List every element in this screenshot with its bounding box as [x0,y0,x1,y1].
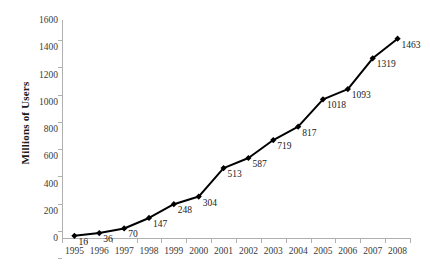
x-tick-mark [186,239,187,243]
x-tick-mark [385,239,386,243]
x-tick-label: 2003 [264,246,283,256]
data-point-label: 1319 [377,59,396,69]
x-tick-label: 2006 [338,246,357,256]
x-tick-label: 2008 [388,246,407,256]
x-tick-label: 2000 [189,246,208,256]
data-point-label: 70 [128,229,138,239]
data-point-label: 513 [228,169,242,179]
y-tick-label: 400 [44,179,58,189]
data-point-label: 16 [78,237,88,247]
data-point-label: 1463 [402,40,421,50]
data-point-label: 1093 [352,90,371,100]
data-point-label: 1018 [327,100,346,110]
y-tick-label: 200 [44,206,58,216]
x-tick-mark [286,239,287,243]
x-tick-mark [311,239,312,243]
x-tick-mark [137,239,138,243]
x-tick-label: 1998 [140,246,159,256]
y-tick-label: 800 [44,124,58,134]
series-polyline [74,39,397,236]
x-tick-mark [161,239,162,243]
x-tick-label: 2002 [239,246,258,256]
data-point-label: 147 [153,219,167,229]
x-tick-label: 2001 [214,246,233,256]
data-point-marker [96,230,102,236]
y-tick-label: 1400 [39,42,58,52]
data-point-label: 587 [252,159,266,169]
x-tick-label: 1997 [115,246,134,256]
x-tick-label: 1995 [65,246,84,256]
x-tick-mark [360,239,361,243]
data-point-label: 304 [203,198,217,208]
x-tick-label: 2004 [289,246,308,256]
x-tick-label: 1999 [164,246,183,256]
data-point-label: 248 [178,205,192,215]
x-tick-mark [62,239,63,243]
y-tick-label: 1000 [39,97,58,107]
x-tick-mark [261,239,262,243]
x-tick-label: 1996 [90,246,109,256]
y-tick-label: 1600 [39,15,58,25]
x-tick-mark [335,239,336,243]
data-point-marker [121,225,127,231]
x-tick-mark [410,239,411,243]
data-point-label: 36 [103,234,113,244]
data-point-label: 817 [302,128,316,138]
y-tick-label: 0 [53,233,58,243]
x-tick-mark [236,239,237,243]
line-chart: Millions of Users 0200400600800100012001… [0,0,430,275]
data-point-label: 719 [277,141,291,151]
x-tick-label: 2007 [363,246,382,256]
data-point-marker [71,233,77,239]
x-tick-label: 2005 [314,246,333,256]
y-tick-label: 1200 [39,70,58,80]
series-line [0,0,430,275]
x-tick-mark [211,239,212,243]
y-tick-label: 600 [44,151,58,161]
